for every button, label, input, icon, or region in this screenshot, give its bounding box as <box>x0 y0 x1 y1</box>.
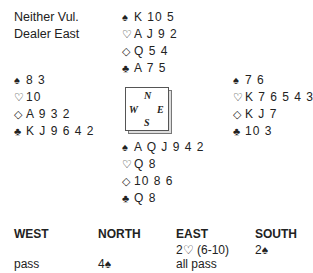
north-diamonds: Q 5 4 <box>134 44 168 58</box>
bid-cell: 2♠ <box>255 243 268 257</box>
dealer: Dealer East <box>14 26 79 43</box>
header-west: WEST <box>14 225 49 243</box>
compass-diagram: N W E S <box>125 87 167 129</box>
heart-icon: ♡ <box>233 89 245 106</box>
header-north: NORTH <box>98 225 141 243</box>
auction-row: 2♡ (6-10) 2♠ <box>14 243 309 257</box>
heart-icon: ♡ <box>122 156 134 173</box>
auction-table: WEST NORTH EAST SOUTH 2♡ (6-10) 2♠ pass … <box>14 225 309 271</box>
west-hand: ♠8 3 ♡10 ◇A 9 3 2 ♣K J 9 6 4 2 <box>14 72 94 140</box>
spade-icon: ♠ <box>233 72 245 89</box>
diamond-icon: ◇ <box>14 106 26 123</box>
south-spades: A Q J 9 4 2 <box>134 140 204 154</box>
vulnerability: Neither Vul. <box>14 9 79 26</box>
south-clubs: Q 8 <box>134 191 156 205</box>
west-hearts: 10 <box>26 90 41 104</box>
east-hearts: K 7 6 5 4 3 <box>245 90 313 104</box>
auction-row: pass 4♠ all pass <box>14 257 309 271</box>
west-diamonds: A 9 3 2 <box>26 107 70 121</box>
bid-cell: 2♡ (6-10) <box>176 243 229 257</box>
east-hand: ♠7 6 ♡K 7 6 5 4 3 ◇K J 7 ♣10 3 <box>233 72 313 140</box>
heart-icon: ♡ <box>14 89 26 106</box>
south-hand: ♠A Q J 9 4 2 ♡Q 8 ◇10 8 6 ♣Q 8 <box>122 139 204 207</box>
compass-north: N <box>144 90 151 101</box>
club-icon: ♣ <box>122 60 134 77</box>
west-clubs: K J 9 6 4 2 <box>26 124 94 138</box>
deal-info: Neither Vul. Dealer East <box>14 9 79 43</box>
north-hearts: A J 9 2 <box>134 27 178 41</box>
club-icon: ♣ <box>233 123 245 140</box>
diamond-icon: ◇ <box>122 43 134 60</box>
spade-icon: ♠ <box>122 9 134 26</box>
bid-cell: pass <box>14 257 39 271</box>
north-spades: K 10 5 <box>134 10 175 24</box>
south-diamonds: 10 8 6 <box>134 174 173 188</box>
north-hand: ♠K 10 5 ♡A J 9 2 ◇Q 5 4 ♣A 7 5 <box>122 9 178 77</box>
spade-icon: ♠ <box>14 72 26 89</box>
header-south: SOUTH <box>255 225 297 243</box>
compass-east: E <box>157 104 164 115</box>
east-clubs: 10 3 <box>245 124 272 138</box>
north-clubs: A 7 5 <box>134 61 166 75</box>
diamond-icon: ◇ <box>122 173 134 190</box>
header-east: EAST <box>176 225 208 243</box>
bid-cell: all pass <box>176 257 217 271</box>
west-spades: 8 3 <box>26 73 46 87</box>
diamond-icon: ◇ <box>233 106 245 123</box>
bid-cell: 4♠ <box>98 257 111 271</box>
east-diamonds: K J 7 <box>245 107 277 121</box>
heart-icon: ♡ <box>122 26 134 43</box>
club-icon: ♣ <box>122 190 134 207</box>
club-icon: ♣ <box>14 123 26 140</box>
spade-icon: ♠ <box>122 139 134 156</box>
auction-header: WEST NORTH EAST SOUTH <box>14 225 309 243</box>
compass-west: W <box>129 104 138 115</box>
south-hearts: Q 8 <box>134 157 156 171</box>
compass-south: S <box>144 117 150 128</box>
east-spades: 7 6 <box>245 73 265 87</box>
